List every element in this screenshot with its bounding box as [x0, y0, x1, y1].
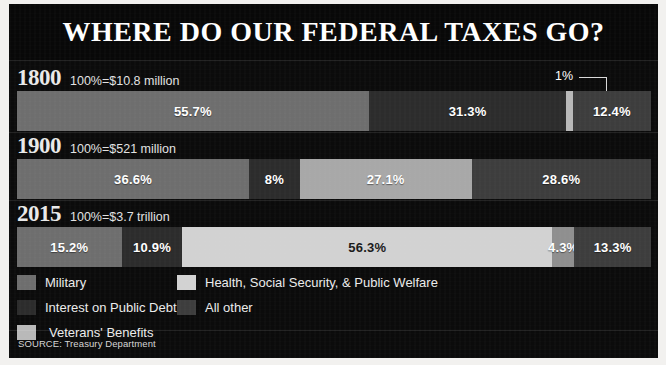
callout-label-1pct: 1%: [555, 69, 573, 83]
infographic-root: WHERE DO OUR FEDERAL TAXES GO? 1800 100%…: [0, 0, 666, 365]
bar-segment-interest[interactable]: 10.9%: [122, 227, 183, 267]
bar-segment-health[interactable]: 56.3%: [182, 227, 552, 267]
bar-segment-veterans[interactable]: 4.3%: [552, 227, 574, 267]
bar-segment-value: 12.4%: [593, 104, 631, 119]
bar-segment-all-other[interactable]: 13.3%: [574, 227, 651, 267]
bar-segment-value: 56.3%: [348, 240, 386, 255]
legend-item-health-social-security-public-welfare[interactable]: Health, Social Security, & Public Welfar…: [177, 270, 438, 295]
legend-item-label: Interest on Public Debt: [45, 300, 177, 315]
row-total-label: 100%=$3.7 trillion: [70, 210, 170, 224]
infographic-panel: WHERE DO OUR FEDERAL TAXES GO? 1800 100%…: [9, 4, 658, 358]
bar-segment-value: 55.7%: [174, 104, 212, 119]
row-year-label: 1800: [17, 66, 61, 89]
bar-segment-value: 36.6%: [114, 172, 152, 187]
row-year-label: 2015: [17, 202, 61, 225]
title-band: WHERE DO OUR FEDERAL TAXES GO?: [9, 4, 658, 60]
row-total-label: 100%=$10.8 million: [70, 74, 179, 88]
bar-segment-military[interactable]: 15.2%: [17, 227, 122, 267]
divider-top: [9, 60, 658, 61]
row-header-1900: 1900 100%=$521 million: [17, 134, 176, 156]
row-header-2015: 2015 100%=$3.7 trillion: [17, 202, 170, 224]
page-title: WHERE DO OUR FEDERAL TAXES GO?: [9, 16, 658, 48]
divider-1900-2015: [9, 200, 658, 201]
bar-segment-value: 28.6%: [542, 172, 580, 187]
legend-item-military[interactable]: Military: [17, 270, 177, 295]
row-header-1800: 1800 100%=$10.8 million: [17, 66, 179, 88]
bar-segment-interest[interactable]: 8%: [249, 159, 300, 199]
row-year-label: 1900: [17, 134, 61, 157]
bar-segment-value: 27.1%: [367, 172, 405, 187]
legend-item-label: Military: [45, 275, 86, 290]
legend-item-all-other[interactable]: All other: [177, 295, 438, 320]
legend-item-label: All other: [205, 300, 253, 315]
legend-swatch-icon: [17, 300, 36, 315]
bar-segment-military[interactable]: 55.7%: [17, 91, 369, 131]
bar-segment-all-other[interactable]: 12.4%: [573, 91, 651, 131]
bar-segment-value: 31.3%: [449, 104, 487, 119]
legend-item-label: Health, Social Security, & Public Welfar…: [205, 275, 438, 290]
bar-segment-value: 13.3%: [594, 240, 632, 255]
stacked-bar-2015: 15.2% 10.9% 56.3% 4.3% 13.3%: [17, 227, 651, 267]
bar-segment-value: 8%: [265, 172, 284, 187]
bar-segment-veterans[interactable]: 27.1%: [300, 159, 472, 199]
bar-segment-interest[interactable]: 31.3%: [369, 91, 567, 131]
divider-source: [9, 330, 658, 331]
bar-segment-all-other[interactable]: 28.6%: [472, 159, 651, 199]
source-note: SOURCE: Treasury Department: [18, 338, 156, 349]
divider-1800-1900: [9, 132, 658, 133]
stacked-bar-1800: 55.7% 31.3% 1% 12.4%: [17, 91, 651, 131]
legend-swatch-icon: [17, 275, 36, 290]
legend-swatch-icon: [177, 275, 196, 290]
stacked-bar-1900: 36.6% 8% 27.1% 28.6%: [17, 159, 651, 199]
legend-column-right: Health, Social Security, & Public Welfar…: [177, 270, 438, 320]
bar-segment-value: 15.2%: [50, 240, 88, 255]
bar-segment-value: 10.9%: [133, 240, 171, 255]
bar-segment-military[interactable]: 36.6%: [17, 159, 249, 199]
legend-column-left: Military Interest on Public Debt Veteran…: [17, 270, 177, 345]
callout-leader-vertical: [606, 77, 607, 91]
legend-item-interest-on-public-debt[interactable]: Interest on Public Debt: [17, 295, 177, 320]
legend-swatch-icon: [177, 300, 196, 315]
row-total-label: 100%=$521 million: [70, 142, 176, 156]
callout-leader-horizontal: [579, 77, 607, 78]
